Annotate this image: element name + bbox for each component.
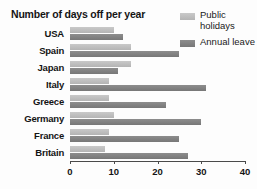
x-axis-tick-label: 0 [67, 166, 72, 177]
chart-title: Number of days off per year [11, 8, 145, 20]
chart-container: Number of days off per year Public holid… [0, 0, 257, 189]
x-axis-tick [70, 161, 71, 164]
category-axis-labels: USASpainJapanItalyGreeceGermanyFranceBri… [0, 26, 68, 162]
x-axis-tick [158, 161, 159, 164]
category-label: Germany [24, 113, 64, 124]
x-axis-tick-label: 10 [108, 166, 119, 177]
bar-public-holidays [70, 78, 109, 84]
bars-area [70, 26, 245, 162]
bar-public-holidays [70, 44, 131, 50]
bar-public-holidays [70, 129, 109, 135]
bar-public-holidays [70, 27, 114, 33]
bar-public-holidays [70, 95, 109, 101]
x-axis-tick-label: 20 [152, 166, 163, 177]
category-label: France [34, 130, 64, 141]
category-label: Japan [38, 62, 64, 73]
bar-annual-leave [70, 119, 201, 125]
legend-swatch-public-holidays [180, 13, 195, 20]
bar-annual-leave [70, 68, 118, 74]
x-axis-tick-label: 30 [196, 166, 207, 177]
bar-annual-leave [70, 85, 206, 91]
bar-public-holidays [70, 112, 114, 118]
x-axis-tick [201, 161, 202, 164]
bar-public-holidays [70, 61, 131, 67]
bar-annual-leave [70, 153, 188, 159]
bar-public-holidays [70, 146, 105, 152]
category-label: Spain [39, 45, 64, 56]
x-axis-tick [245, 161, 246, 164]
category-label: Britain [35, 147, 64, 158]
plot-area: USASpainJapanItalyGreeceGermanyFranceBri… [0, 26, 257, 162]
category-label: Italy [46, 79, 64, 90]
category-label: USA [45, 28, 64, 39]
bar-annual-leave [70, 34, 123, 40]
bar-annual-leave [70, 102, 166, 108]
bar-annual-leave [70, 136, 179, 142]
category-label: Greece [33, 96, 64, 107]
x-axis-tick [114, 161, 115, 164]
x-axis-tick-label: 40 [240, 166, 251, 177]
bar-annual-leave [70, 51, 179, 57]
